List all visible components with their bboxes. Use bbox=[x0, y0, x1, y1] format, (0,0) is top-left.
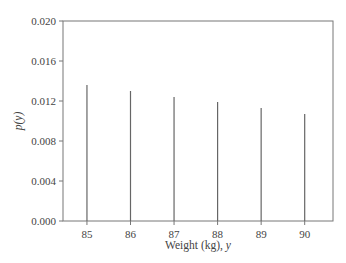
plot-frame bbox=[63, 21, 333, 221]
x-tick-label: 85 bbox=[81, 228, 93, 240]
y-tick-label: 0.016 bbox=[31, 55, 56, 67]
x-tick-label: 90 bbox=[299, 228, 311, 240]
x-axis-label: Weight (kg), y bbox=[165, 239, 232, 252]
x-axis: 858687888990 bbox=[81, 221, 310, 240]
y-tick-label: 0.008 bbox=[31, 135, 56, 147]
data-stems bbox=[87, 85, 305, 221]
y-axis: 0.0000.0040.0080.0120.0160.020 bbox=[31, 15, 63, 227]
x-tick-label: 89 bbox=[256, 228, 268, 240]
x-tick-label: 86 bbox=[125, 228, 137, 240]
y-tick-label: 0.004 bbox=[31, 175, 56, 187]
y-tick-label: 0.012 bbox=[31, 95, 56, 107]
y-tick-label: 0.000 bbox=[31, 215, 56, 227]
y-tick-label: 0.020 bbox=[31, 15, 56, 27]
y-axis-label: p(y) bbox=[12, 112, 25, 132]
chart: 0.0000.0040.0080.0120.0160.020 858687888… bbox=[0, 0, 346, 263]
